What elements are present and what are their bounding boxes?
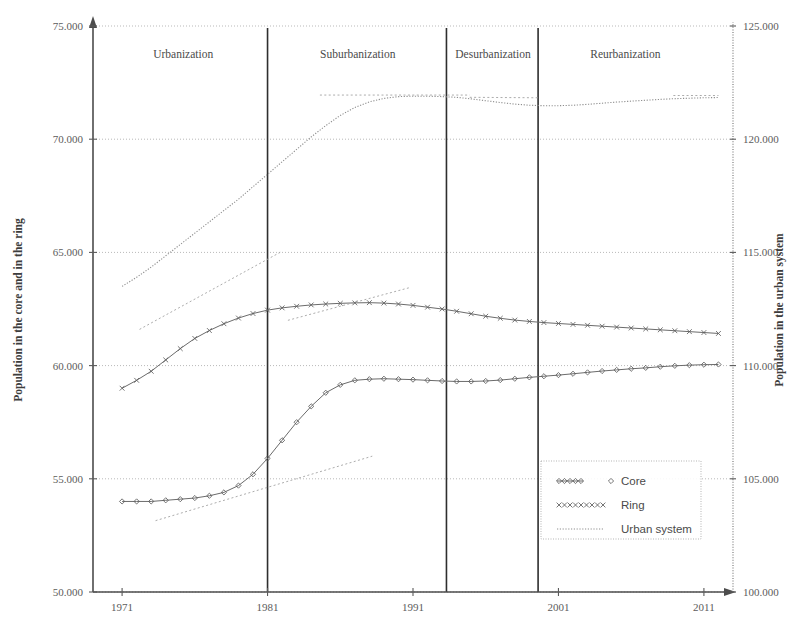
legend: CoreRingUrban system xyxy=(541,461,701,539)
phase-label: Desurbanization xyxy=(455,48,531,60)
y2-axis-tick-label: 125.000 xyxy=(743,20,779,32)
phase-labels-group: UrbanizationSuburbanizationDesurbanizati… xyxy=(153,48,661,60)
trend-line xyxy=(156,456,373,521)
x-axis-tick-label: 1971 xyxy=(111,601,133,613)
legend-label: Ring xyxy=(621,499,645,511)
trend-line xyxy=(140,251,283,329)
y-axis-tick-label: 65.000 xyxy=(53,246,84,258)
legend-label: Core xyxy=(621,475,646,487)
x-axis-tick-label: 1981 xyxy=(257,601,279,613)
chart-figure: 50.00055.00060.00065.00070.00075.000100.… xyxy=(0,0,797,639)
y-axis-tick-label: 50.000 xyxy=(53,586,84,598)
y-axis-tick-label: 60.000 xyxy=(53,360,84,372)
legend-label: Urban system xyxy=(621,523,692,535)
y-axis-tick-label: 55.000 xyxy=(53,473,84,485)
y-axis-right-title: Population in the urban system xyxy=(773,233,786,387)
phase-label: Urbanization xyxy=(153,48,213,60)
y2-axis-tick-label: 120.000 xyxy=(743,133,779,145)
x-axis-tick-label: 1991 xyxy=(402,601,424,613)
y-axis-tick-label: 75.000 xyxy=(53,20,84,32)
x-axis-tick-label: 2011 xyxy=(693,601,715,613)
phase-label: Suburbanization xyxy=(320,48,396,60)
series-line-ring xyxy=(122,303,718,389)
y-axis-tick-label: 70.000 xyxy=(53,133,84,145)
data-series-group xyxy=(119,96,721,504)
y-axis-left-title: Population in the core and in the ring xyxy=(12,218,25,402)
y2-axis-tick-label: 100.000 xyxy=(743,586,779,598)
chart-canvas: 50.00055.00060.00065.00070.00075.000100.… xyxy=(0,0,797,639)
x-axis-tick-label: 2001 xyxy=(547,601,569,613)
y2-axis-tick-label: 105.000 xyxy=(743,473,779,485)
phase-divider-group xyxy=(268,28,539,592)
phase-label: Reurbanization xyxy=(590,48,661,60)
series-line-urban-system xyxy=(122,96,718,286)
